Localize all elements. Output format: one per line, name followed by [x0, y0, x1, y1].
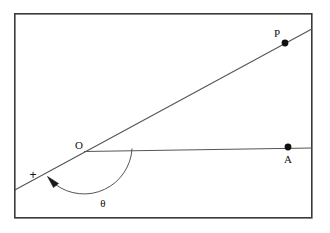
- angle-theta-label: θ: [100, 197, 105, 209]
- point-a-dot: [285, 144, 292, 151]
- origin-label: O: [75, 139, 83, 151]
- sloped-line-through-O-and-P: [15, 29, 312, 190]
- point-p-label: P: [274, 27, 280, 39]
- angle-diagram-canvas: P A O θ +: [0, 0, 330, 233]
- plus-direction-marker-label: +: [29, 168, 36, 182]
- theta-arc: [56, 149, 133, 194]
- point-p-dot: [282, 40, 289, 47]
- point-a-label: A: [284, 153, 292, 165]
- horizontal-ray-OA: [84, 148, 312, 152]
- geometry-figure: P A O θ +: [0, 0, 330, 233]
